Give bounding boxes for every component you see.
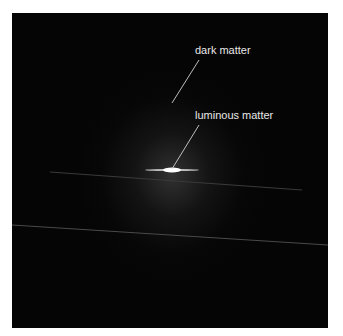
dark-matter-leader-line (172, 60, 199, 103)
image-overlay (12, 13, 328, 328)
luminous-matter-label: luminous matter (195, 109, 273, 121)
luminous-matter-leader-line (172, 125, 199, 169)
faint-streak-line (50, 172, 302, 190)
faint-streak-line (12, 225, 328, 245)
galaxy-image-panel: dark matter luminous matter (12, 13, 328, 328)
dark-matter-label: dark matter (195, 44, 251, 56)
